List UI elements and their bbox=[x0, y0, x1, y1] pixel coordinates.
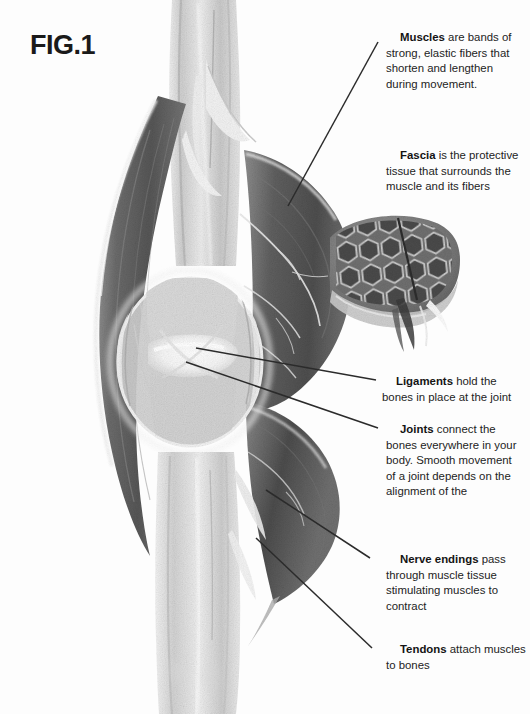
leader-line-muscles bbox=[288, 42, 378, 206]
figure-label: FIG.1 bbox=[30, 30, 95, 61]
callout-tendons-term: Tendons bbox=[400, 643, 447, 655]
callout-nerve-endings: Nerve endings pass through muscle tissue… bbox=[386, 552, 526, 614]
callout-joints: Joints connect the bones everywhere in y… bbox=[386, 422, 518, 500]
figure-page: FIG.1 Muscles are bands of strong, elast… bbox=[0, 0, 530, 714]
callout-nerve-endings-term: Nerve endings bbox=[400, 553, 479, 565]
callout-tendons: Tendons attach muscles to bones bbox=[386, 642, 526, 673]
callout-fascia: Fascia is the protective tissue that sur… bbox=[386, 148, 528, 195]
callout-ligaments: Ligaments hold the bones in place at the… bbox=[382, 374, 530, 405]
callout-muscles: Muscles are bands of strong, elastic fib… bbox=[386, 30, 524, 92]
callout-joints-term: Joints bbox=[400, 423, 434, 435]
callout-ligaments-term: Ligaments bbox=[396, 375, 453, 387]
callout-muscles-term: Muscles bbox=[400, 31, 445, 43]
callout-fascia-term: Fascia bbox=[400, 149, 435, 161]
fascia-inset bbox=[320, 206, 470, 352]
